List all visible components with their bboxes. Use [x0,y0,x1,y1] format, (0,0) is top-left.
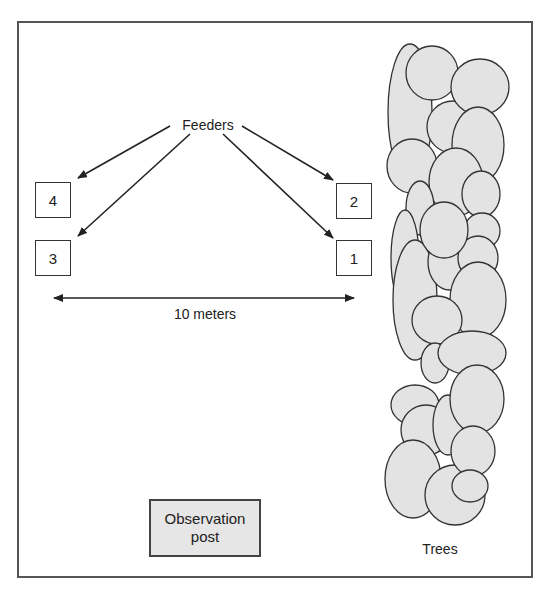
feeder-arrows [78,126,333,238]
observation-post-line2: post [191,528,219,546]
diagram-canvas [0,0,546,591]
trees-label: Trees [410,541,470,557]
distance-label: 10 meters [150,306,260,322]
observation-post: Observation post [149,499,261,557]
feeder-3: 3 [35,240,71,276]
trees-cluster [385,44,509,525]
feeders-label: Feeders [173,117,243,133]
feeder-1: 1 [336,240,372,276]
feeder-4: 4 [35,182,71,218]
feeder-2: 2 [336,183,372,219]
observation-post-line1: Observation [165,510,246,528]
